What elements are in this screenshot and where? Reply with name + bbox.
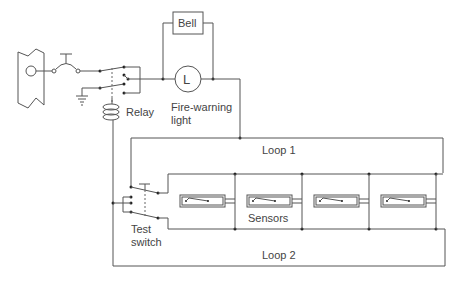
light-label-1: Fire-warning [171,101,232,113]
sensors-label: Sensors [248,212,289,224]
bell-light-group: Bell L Fire-warning light [160,12,242,140]
test-switch: Test switch [112,174,169,248]
loop2-label: Loop 2 [262,249,296,261]
loop-1: Loop 1 [131,138,443,187]
relay-label: Relay [126,106,155,118]
sensor-4 [381,195,436,207]
lamp-letter: L [183,72,190,87]
test-label-2: switch [131,236,162,248]
bell-label: Bell [178,17,196,29]
diagram-svg: Relay Bell L Fire-warning light Loop 1 [0,0,458,281]
sensor-3 [314,195,369,207]
loop-2: Loop 2 [113,228,445,267]
circuit-diagram: Relay Bell L Fire-warning light Loop 1 [0,0,458,281]
sensor-1 [180,195,235,207]
test-label-1: Test [131,223,151,235]
master-switch [52,54,100,73]
power-source [18,49,52,108]
loop1-label: Loop 1 [262,144,296,156]
light-label-2: light [171,114,191,126]
sensor-2 [247,195,302,207]
